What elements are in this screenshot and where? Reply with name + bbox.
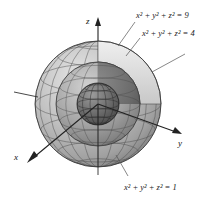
label-inner-sphere: x² + y² + z² = 1: [123, 182, 177, 192]
negative-axis-stub: [14, 92, 38, 97]
z-axis-label: z: [85, 16, 90, 26]
diagram-canvas: x² + y² + z² = 9 x² + y² + z² = 4 x² + y…: [0, 0, 216, 210]
x-axis-label: x: [13, 152, 18, 162]
y-axis-label: y: [177, 138, 182, 148]
sphere-diagram: x² + y² + z² = 9 x² + y² + z² = 4 x² + y…: [0, 0, 216, 210]
label-middle-sphere: x² + y² + z² = 4: [141, 28, 195, 38]
label-outer-sphere: x² + y² + z² = 9: [135, 10, 189, 20]
